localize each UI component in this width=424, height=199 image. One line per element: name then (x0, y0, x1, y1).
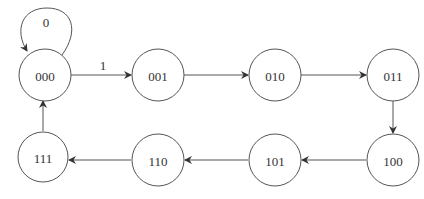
svg-text:100: 100 (383, 154, 403, 169)
self-loop-label: 0 (43, 15, 50, 30)
svg-text:111: 111 (34, 151, 53, 166)
state-011: 011 (367, 49, 419, 101)
state-000: 000 (19, 49, 71, 101)
svg-text:000: 000 (35, 69, 55, 84)
svg-text:101: 101 (265, 154, 285, 169)
state-101: 101 (249, 134, 301, 186)
svg-text:010: 010 (265, 69, 285, 84)
svg-text:110: 110 (148, 154, 167, 169)
state-diagram: 0 1 000 001 010 011 100 101 110 111 (0, 0, 424, 199)
svg-text:001: 001 (148, 69, 168, 84)
state-010: 010 (249, 49, 301, 101)
svg-text:011: 011 (383, 69, 402, 84)
edge-label-1: 1 (100, 58, 107, 73)
state-001: 001 (132, 49, 184, 101)
state-111: 111 (18, 132, 68, 182)
state-100: 100 (367, 134, 419, 186)
state-110: 110 (132, 134, 184, 186)
